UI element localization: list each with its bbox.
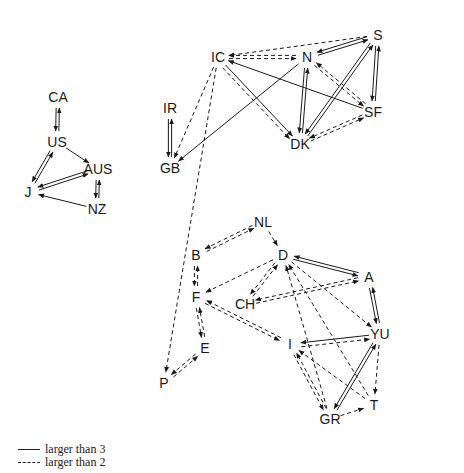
- edge-NZ-J: [39, 195, 87, 207]
- edge-GR-D: [286, 266, 327, 409]
- edge-IC-GB: [174, 67, 213, 158]
- edge-AUS-J: [38, 171, 87, 187]
- edge-US-J: [32, 151, 50, 182]
- edge-SF-S: [375, 46, 379, 101]
- legend-item-dashed: larger than 2: [18, 456, 105, 469]
- edge-DK-S: [308, 45, 373, 136]
- edge-A-CH: [255, 278, 358, 300]
- node-f: F: [192, 289, 201, 305]
- node-dk: DK: [290, 136, 310, 152]
- node-sf: SF: [364, 104, 382, 120]
- node-gr: GR: [320, 411, 341, 427]
- edge-E-P: [171, 354, 195, 375]
- node-ch: CH: [235, 296, 255, 312]
- edge-S-SF: [372, 46, 376, 101]
- edge-CH-D: [253, 265, 278, 297]
- edge-IC-DK: [226, 65, 293, 136]
- node-t: T: [370, 397, 379, 413]
- node-nl: NL: [254, 214, 272, 230]
- legend: larger than 3 larger than 2: [18, 443, 105, 469]
- edge-YU-GR: [334, 343, 373, 409]
- nodes-layer: CAUSAUSJNZIRGBICNSSFDKNLBDFCHAEIYUPTGR: [25, 27, 390, 427]
- edge-D-CH: [250, 263, 275, 295]
- edge-GR-I: [297, 353, 327, 409]
- node-aus: AUS: [84, 161, 113, 177]
- network-diagram: CAUSAUSJNZIRGBICNSSFDKNLBDFCHAEIYUPTGR: [0, 0, 464, 473]
- edge-J-US: [35, 152, 53, 183]
- node-p: P: [159, 375, 168, 391]
- edge-SF-DK: [309, 115, 362, 138]
- solid-line-swatch-icon: [18, 449, 40, 450]
- edge-A-YU: [370, 288, 377, 323]
- edge-I-YU: [301, 339, 369, 347]
- edge-GR-T: [340, 408, 363, 415]
- edge-S-N: [317, 37, 367, 52]
- legend-label-dashed: larger than 2: [45, 456, 105, 469]
- node-n: N: [302, 49, 312, 65]
- edge-S-DK: [305, 43, 370, 134]
- node-ir: IR: [163, 100, 177, 116]
- edge-YU-A: [373, 287, 380, 322]
- node-gb: GB: [160, 160, 180, 176]
- node-e: E: [200, 340, 209, 356]
- node-yu: YU: [370, 326, 389, 342]
- node-us: US: [47, 134, 66, 150]
- node-a: A: [364, 269, 374, 285]
- edge-B-NL: [207, 228, 254, 251]
- node-d: D: [278, 247, 288, 263]
- edge-D-YU: [292, 262, 372, 327]
- edge-YU-T: [375, 345, 379, 394]
- edge-CA-US: [56, 108, 57, 131]
- edge-P-E: [173, 356, 197, 377]
- node-b: B: [191, 247, 200, 263]
- edge-D-A: [293, 259, 358, 276]
- edge-SF-N: [316, 63, 365, 104]
- node-ic: IC: [211, 49, 225, 65]
- node-nz: NZ: [88, 201, 107, 217]
- edge-J-AUS: [39, 174, 88, 190]
- node-ca: CA: [48, 89, 68, 105]
- node-i: I: [288, 336, 292, 352]
- edge-A-D: [294, 256, 359, 273]
- node-j: J: [25, 184, 32, 200]
- edges-layer: [32, 36, 379, 415]
- edge-US-CA: [59, 108, 60, 131]
- edge-NL-B: [205, 225, 252, 248]
- edge-D-F: [206, 260, 273, 292]
- dashed-line-swatch-icon: [18, 462, 40, 463]
- edge-NL-D: [269, 231, 278, 245]
- edge-I-GR: [294, 354, 324, 410]
- node-s: S: [373, 27, 382, 43]
- edge-CH-A: [256, 281, 359, 303]
